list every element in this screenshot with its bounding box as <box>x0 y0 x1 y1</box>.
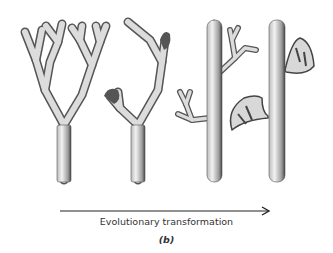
figure-caption: Evolutionary transformation <box>0 216 333 227</box>
figure-label: (b) <box>0 234 333 245</box>
stage-4-webbed-leaves <box>231 20 315 182</box>
stage-1-branching <box>25 24 106 182</box>
stage-2-overtopping <box>104 22 170 182</box>
evolution-diagram <box>0 0 333 200</box>
